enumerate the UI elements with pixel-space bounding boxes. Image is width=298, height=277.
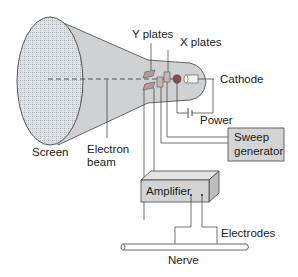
amplifier-label: Amplifier <box>146 185 191 198</box>
x-plates-label: X plates <box>180 36 222 49</box>
y-plates-label: Y plates <box>132 28 173 41</box>
oscilloscope-diagram: Y plates X plates Cathode Power Screen E… <box>0 0 298 277</box>
electrodes-label: Electrodes <box>221 227 275 240</box>
screen-label: Screen <box>32 146 68 159</box>
nerve-label: Nerve <box>168 254 199 267</box>
sweep-generator-label-1: Sweep <box>234 131 269 144</box>
cathode <box>184 75 198 83</box>
sweep-generator-label-2: generator <box>234 145 283 158</box>
electrodes <box>174 195 219 248</box>
electron-beam-label-2: beam <box>87 156 116 169</box>
cathode-label: Cathode <box>220 73 263 86</box>
power-label: Power <box>200 114 233 127</box>
anode-icon <box>173 75 181 83</box>
electron-beam-label-1: Electron <box>87 143 129 156</box>
screen <box>17 17 83 145</box>
nerve <box>121 244 249 250</box>
